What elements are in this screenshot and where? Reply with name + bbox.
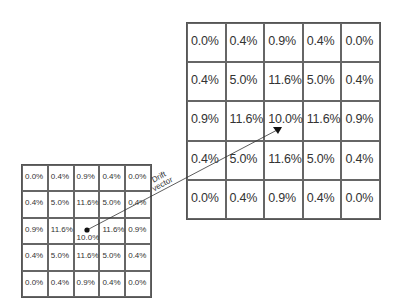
origin-dot-icon xyxy=(84,227,89,232)
arrowhead-icon xyxy=(273,127,282,134)
drift-vector-arrow xyxy=(0,0,399,308)
